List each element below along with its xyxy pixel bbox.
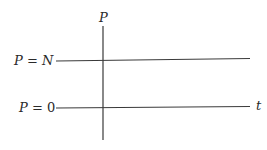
- equilibrium-label-n: P = N: [13, 53, 54, 68]
- equilibrium-line-zero: [56, 107, 250, 109]
- equilibrium-line-n: [56, 59, 250, 62]
- equilibrium-label-zero: P = 0: [18, 100, 55, 115]
- phase-line-diagram: P P = N P = 0 t: [0, 0, 267, 150]
- t-axis-label: t: [256, 98, 262, 113]
- p-axis-label: P: [98, 10, 108, 25]
